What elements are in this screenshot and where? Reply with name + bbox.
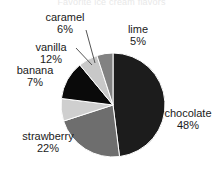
slice-label-vanilla-name: vanilla — [20, 42, 82, 54]
slice-label-caramel-percent: 6% — [34, 24, 96, 36]
slice-label-strawberry-percent: 22% — [0, 143, 96, 155]
slice-label-chocolate-percent: 48% — [155, 120, 221, 132]
slice-label-strawberry-name: strawberry — [0, 131, 96, 143]
slice-label-caramel-name: caramel — [34, 12, 96, 24]
pie-slice-chocolate — [113, 53, 165, 157]
slice-label-banana-percent: 7% — [4, 77, 66, 89]
pie-chart: Favorite ice cream flavors caramel 6% li… — [0, 0, 223, 171]
slice-label-banana: banana 7% — [4, 65, 66, 88]
slice-label-lime: lime 5% — [116, 24, 160, 47]
slice-label-banana-name: banana — [4, 65, 66, 77]
slice-label-vanilla: vanilla 12% — [20, 42, 82, 65]
slice-label-strawberry: strawberry 22% — [0, 131, 96, 154]
slice-label-lime-percent: 5% — [116, 36, 160, 48]
slice-label-caramel: caramel 6% — [34, 12, 96, 35]
slice-label-chocolate: chocolate 48% — [155, 108, 221, 131]
slice-label-lime-name: lime — [116, 24, 160, 36]
slice-label-chocolate-name: chocolate — [155, 108, 221, 120]
